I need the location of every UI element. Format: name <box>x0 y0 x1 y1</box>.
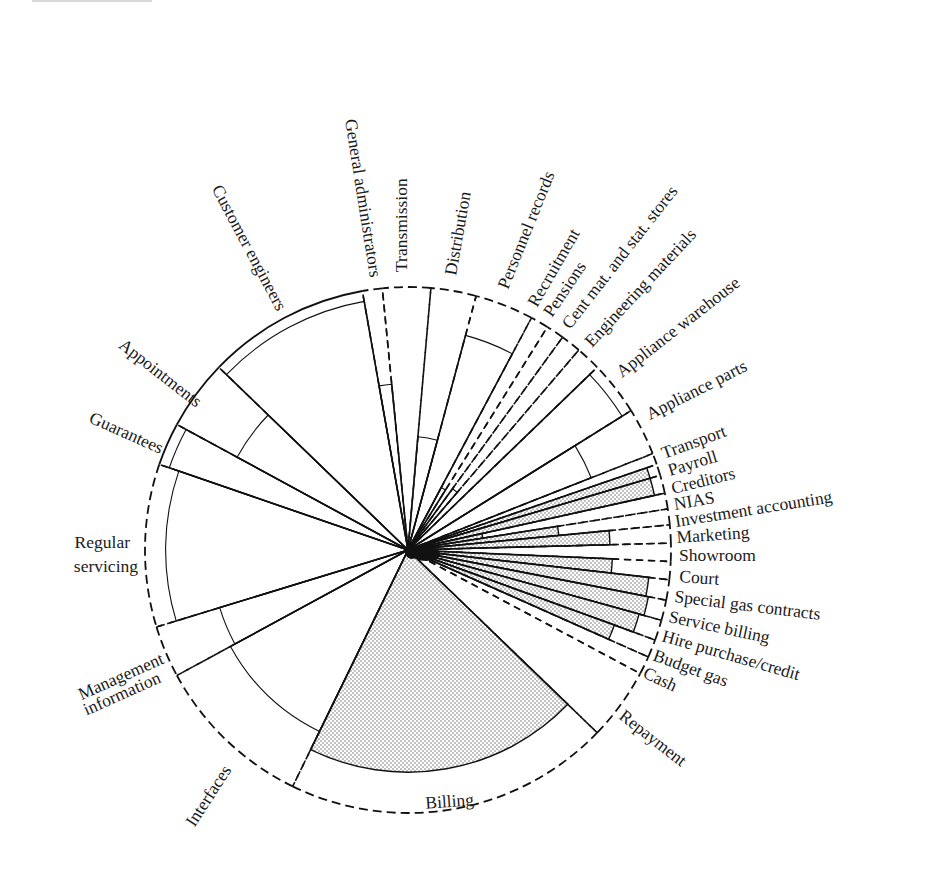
outer-arc <box>563 337 579 350</box>
inner-wedge <box>169 430 408 551</box>
label-servicing: servicing <box>74 556 138 576</box>
inner-wedge <box>166 471 408 621</box>
outer-arc <box>669 562 670 580</box>
outer-arc <box>532 318 548 327</box>
outer-arc <box>666 580 669 600</box>
outer-arc <box>653 454 657 465</box>
label-appliance-parts: Appliance parts <box>643 356 751 424</box>
outer-arc <box>655 620 661 640</box>
label-distribution: Distribution <box>440 190 474 277</box>
outer-arc <box>431 288 476 296</box>
outer-arc <box>382 287 431 288</box>
label-general-administrators: General administrators <box>341 118 386 279</box>
center-hub-dense <box>412 547 440 561</box>
outer-arc <box>668 509 670 525</box>
radial-function-diagram: General administrators Transmission Dist… <box>0 0 929 882</box>
label-marketing: Marketing <box>676 522 750 547</box>
outer-arc <box>665 493 668 509</box>
segment-transmission <box>382 287 431 550</box>
label-appointments: Appointments <box>115 334 206 411</box>
label-regular: Regular <box>75 532 131 552</box>
outer-arc <box>661 600 666 620</box>
segment-appointments <box>177 367 408 550</box>
inner-wedge <box>237 415 408 550</box>
outer-arc <box>145 464 159 627</box>
outer-arc <box>547 327 562 337</box>
inner-wedge <box>226 301 408 550</box>
label-transmission: Transmission <box>391 178 411 272</box>
outer-arc <box>657 464 661 475</box>
outer-arc <box>670 525 671 543</box>
outer-arc <box>177 676 293 787</box>
segment-guarantees <box>159 425 408 551</box>
outer-arc <box>660 475 665 493</box>
outer-arc <box>579 350 597 367</box>
label-court: Court <box>679 566 720 589</box>
segment-regular-servicing <box>145 464 408 627</box>
label-showroom: Showroom <box>679 545 756 565</box>
label-interfaces: Interfaces <box>181 761 235 830</box>
label-guarantees: Guarantees <box>86 407 166 457</box>
label-customer-engineers: Customer engineers <box>208 181 291 314</box>
segment-customer-engineers <box>219 291 408 550</box>
label-repayment: Repayment <box>616 705 691 770</box>
label-billing: Billing <box>425 789 475 812</box>
chart-segments <box>145 287 671 813</box>
outer-arc <box>362 288 382 291</box>
